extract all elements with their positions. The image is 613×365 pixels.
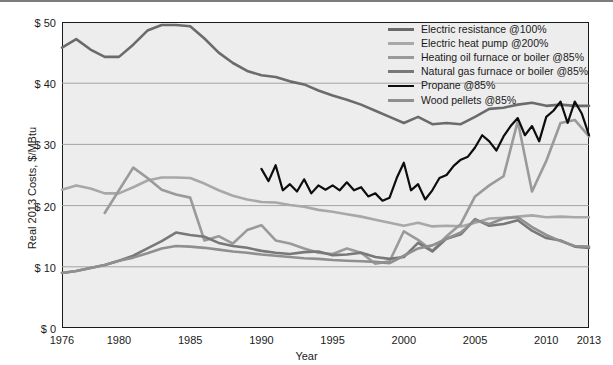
legend-swatch-icon xyxy=(388,42,414,45)
y-axis-title-wrap: Real 2013 Costs, $/MBtu xyxy=(12,62,28,262)
legend-swatch-icon xyxy=(388,70,414,73)
x-tick-label: 1990 xyxy=(231,334,291,346)
x-tick-label: 1980 xyxy=(89,334,149,346)
x-tick-label: 1985 xyxy=(160,334,220,346)
legend-item[interactable]: Heating oil furnace or boiler @85% xyxy=(388,50,588,64)
y-axis-title: Real 2013 Costs, $/MBtu xyxy=(26,108,38,268)
x-tick-label: 2013 xyxy=(559,334,613,346)
x-tick-label: 1995 xyxy=(303,334,363,346)
legend-label: Electric heat pump @200% xyxy=(421,38,548,49)
legend-item[interactable]: Wood pellets @85% xyxy=(388,93,588,107)
legend-item[interactable]: Propane @85% xyxy=(388,79,588,93)
x-tick-label: 2000 xyxy=(374,334,434,346)
legend-label: Electric resistance @100% xyxy=(421,24,547,35)
chart-figure: $ 0$ 10$ 20$ 30$ 40$ 50 Real 2013 Costs,… xyxy=(0,0,613,365)
legend-item[interactable]: Electric resistance @100% xyxy=(388,22,588,36)
legend-item[interactable]: Electric heat pump @200% xyxy=(388,36,588,50)
legend-swatch-icon xyxy=(388,56,414,59)
legend-label: Heating oil furnace or boiler @85% xyxy=(421,52,584,63)
legend-label: Propane @85% xyxy=(421,80,495,91)
legend-swatch-icon xyxy=(388,99,414,102)
chart-legend: Electric resistance @100%Electric heat p… xyxy=(388,22,588,107)
legend-label: Wood pellets @85% xyxy=(421,95,516,106)
x-tick-label: 2005 xyxy=(445,334,505,346)
y-tick-label: $ 50 xyxy=(10,18,56,29)
legend-swatch-icon xyxy=(388,85,414,88)
figure-body: $ 0$ 10$ 20$ 30$ 40$ 50 Real 2013 Costs,… xyxy=(0,2,613,365)
x-tick-label: 1976 xyxy=(32,334,92,346)
legend-item[interactable]: Natural gas furnace or boiler @85% xyxy=(388,65,588,79)
x-axis-title: Year xyxy=(0,350,613,362)
legend-swatch-icon xyxy=(388,28,414,31)
legend-label: Natural gas furnace or boiler @85% xyxy=(421,66,588,77)
